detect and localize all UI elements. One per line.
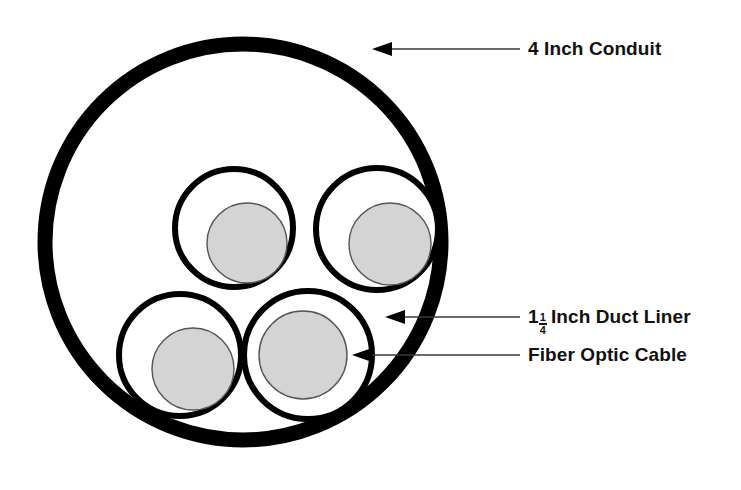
fiber-optic-cable-bottom-left — [152, 328, 234, 410]
label-4-inch-conduit: 4 Inch Conduit — [528, 39, 661, 58]
conduit-diagram-canvas — [0, 0, 741, 490]
duct-liner-fraction-denominator: 4 — [539, 325, 547, 336]
leader-fiber-optic-cable — [352, 348, 520, 362]
fiber-optic-cable-top-left — [207, 203, 287, 283]
duct-liner-fraction-numerator: 1 — [539, 312, 547, 323]
arrowhead-conduit — [372, 42, 392, 56]
label-duct-liner: 114Inch Duct Liner — [528, 307, 691, 338]
duct-liner-whole-number: 1 — [528, 307, 539, 326]
duct-liner-fraction: 14 — [539, 312, 547, 336]
conduit-cross-section-diagram: 4 Inch Conduit 114Inch Duct Liner Fiber … — [0, 0, 741, 490]
duct-liner-label-tail: Inch Duct Liner — [551, 307, 691, 326]
fiber-optic-cable-top-right — [349, 203, 431, 285]
arrowhead-duct-liner — [385, 310, 405, 324]
leader-conduit — [372, 42, 520, 56]
label-fiber-optic-cable: Fiber Optic Cable — [528, 345, 687, 364]
fiber-optic-cable-bottom-right — [259, 311, 347, 399]
leader-duct-liner — [385, 310, 520, 324]
